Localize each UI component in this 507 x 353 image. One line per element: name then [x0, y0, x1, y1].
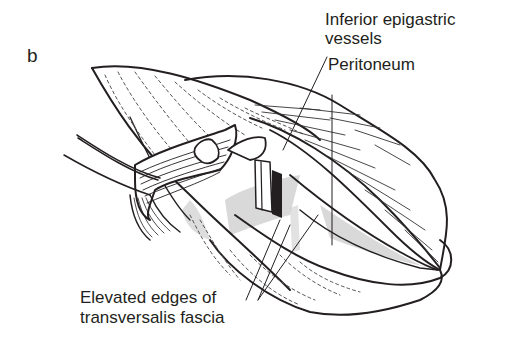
panel-letter: b: [27, 45, 38, 67]
upper-flap-outline: [185, 76, 447, 270]
label-peritoneum: Peritoneum: [328, 55, 415, 74]
illustration-drawing: [0, 0, 507, 353]
anatomical-figure: b Inferior epigastric vessels Peritoneum…: [0, 0, 507, 353]
label-transversalis-line2: transversalis fascia: [80, 308, 225, 327]
label-transversalis-line1: Elevated edges of: [80, 288, 216, 307]
inferior-epigastric-vessels: [255, 160, 272, 212]
label-inferior-epigastric-line1: Inferior epigastric: [325, 10, 455, 29]
label-inferior-epigastric-line2: vessels: [325, 29, 382, 48]
